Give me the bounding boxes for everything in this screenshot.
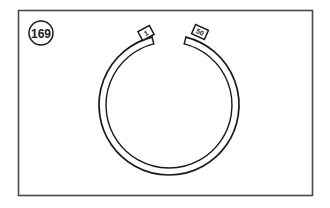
callout-balloon: 169: [29, 21, 53, 45]
diagram-canvas: 1 50 169: [0, 0, 330, 208]
parts-diagram-figure: 1 50 169: [0, 0, 330, 208]
callout-number-label: 169: [31, 27, 51, 41]
